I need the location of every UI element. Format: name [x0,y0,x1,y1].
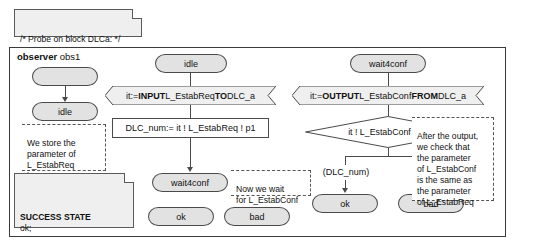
declaration-line-error: ERROR STATE bad; [20,246,128,252]
success-state-value: ok; [20,223,31,233]
state-bad-mid-label: bad [249,212,264,222]
arrowhead-true-to-ok [342,188,348,193]
arrowhead-task-to-wait4conf [187,167,193,172]
start-symbol[interactable] [32,67,98,86]
declaration-note-fold-corner [124,173,134,183]
connector-task-to-wait4conf [190,138,191,169]
declaration-line-success: SUCCESS STATE ok; [20,200,128,235]
comment-after-output: After the output, we check that the para… [412,117,494,201]
state-idle-left[interactable]: idle [32,102,98,121]
state-wait4conf-mid-label: wait4conf [171,178,209,188]
observer-keyword: observer [17,51,57,62]
comment-after-output-text: After the output, we check that the para… [417,131,478,207]
state-wait4conf-mid[interactable]: wait4conf [152,173,228,192]
connector-idle-to-input [190,73,191,86]
observer-frame-title: observer obs1 [17,51,80,62]
declaration-note: SUCCESS STATE ok; ERROR STATE bad; DCL D… [14,173,134,228]
state-bad-mid[interactable]: bad [224,207,290,226]
success-state-keyword: SUCCESS STATE [20,212,91,222]
comment-now-we-wait-text: Now we wait for L_EstabConf [236,184,298,205]
observer-name: obs1 [60,51,81,62]
input-signal-symbol[interactable]: it:= INPUT L_EstabReq TO DLC_a [105,86,276,105]
state-idle-mid-label: idle [184,59,198,69]
comment-store-parameter: We store the parameter of L_EstabReq int… [22,124,106,171]
note-fold-corner [132,9,142,19]
state-ok-right-label: ok [340,199,350,209]
state-idle-mid[interactable]: idle [155,54,227,73]
state-wait4conf-right-label: wait4conf [369,59,407,69]
input-hexagon-shape [105,86,276,105]
connector-output-to-decision [388,105,389,116]
decision-branch-true: (DLC_num) [316,164,376,180]
diagram-canvas: /* Probe on block DLCa: */ probe DLC_a v… [0,0,536,252]
connector-input-to-task [190,105,191,118]
state-idle-left-label: idle [58,107,72,117]
output-hexagon-shape [292,86,484,105]
decision-branch-true-label: (DLC_num) [323,167,370,177]
task-text: DLC_num:= it ! L_EstabReq ! p1 [126,123,256,133]
comment-now-we-wait: Now we wait for L_EstabConf [231,170,311,196]
output-signal-symbol[interactable]: it:= OUTPUT L_EstabConf FROM DLC_a [292,86,484,105]
state-ok-right[interactable]: ok [312,194,378,213]
connector-decision-stem [388,148,389,156]
state-wait4conf-right[interactable]: wait4conf [350,54,426,73]
task-symbol[interactable]: DLC_num:= it ! L_EstabReq ! p1 [112,118,269,138]
state-ok-mid[interactable]: ok [148,207,214,226]
connector-wait4conf-to-output [388,73,389,86]
probe-note-line1: /* Probe on block DLCa: */ [20,34,136,45]
probe-comment-note: /* Probe on block DLCa: */ probe DLC_a v… [14,9,142,37]
state-ok-mid-label: ok [176,212,186,222]
